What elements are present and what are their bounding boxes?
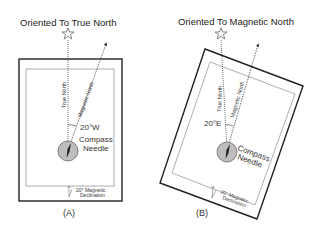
map-frame-outer (19, 59, 122, 201)
panel-a-title: Oriented To True North (20, 17, 116, 28)
panel-a-label: (A) (63, 208, 75, 218)
angle-label: 20°E (204, 119, 221, 128)
north-star-icon (62, 28, 74, 39)
declination-label-2: Declination (80, 192, 105, 198)
true-north-label: True North (61, 82, 67, 108)
diagram-canvas: Oriented To True North True North Magnet… (0, 0, 320, 233)
true-north-label: True North (216, 86, 223, 112)
compass-label-2: Needle (83, 144, 109, 153)
angle-label: 20°W (80, 123, 100, 132)
panel-a: Oriented To True North True North Magnet… (19, 17, 122, 218)
north-star-icon (215, 28, 227, 39)
panel-b: Oriented To Magnetic North True North Ma… (160, 16, 303, 219)
panel-b-label: (B) (196, 208, 208, 218)
compass-label-1: Compass (79, 135, 113, 144)
panel-b-title: Oriented To Magnetic North (178, 16, 294, 27)
